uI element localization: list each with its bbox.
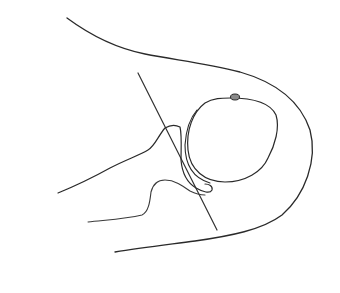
glenoid-upper-contour (58, 126, 212, 193)
humeral-head (188, 98, 278, 182)
reference-line (138, 73, 217, 230)
outer-contour (67, 18, 312, 252)
tuberosity-marker (231, 94, 240, 100)
shoulder-diagram (0, 0, 340, 293)
scapular-neck-contour (88, 180, 205, 222)
